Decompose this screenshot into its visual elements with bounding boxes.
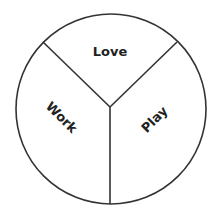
section-label-play: Play — [138, 103, 171, 136]
section-label-love: Love — [93, 44, 128, 59]
love-work-play-diagram: Love Work Play — [0, 0, 213, 216]
section-label-work: Work — [43, 99, 81, 137]
